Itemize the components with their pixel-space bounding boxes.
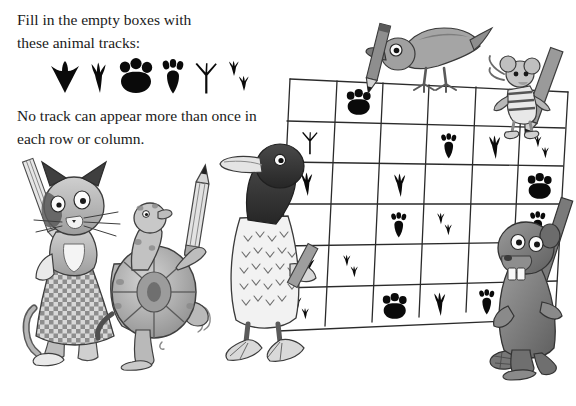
- grid-cell-mouse[interactable]: [327, 244, 373, 290]
- grid-cell-empty[interactable]: [329, 203, 375, 249]
- grid-cell-empty[interactable]: [331, 162, 377, 208]
- legend-slot-rabbit: [157, 60, 189, 94]
- legend-slot-crow: [84, 62, 115, 94]
- rabbit-track-icon: [161, 60, 185, 94]
- turtle-track-icon: [194, 62, 218, 94]
- mouse-track-icon: [341, 254, 360, 280]
- turtle-character: [92, 186, 222, 371]
- grid-cell-cat[interactable]: [371, 283, 417, 329]
- mouse-character: [488, 52, 568, 144]
- grid-cell-crow[interactable]: [378, 162, 424, 208]
- instruction-line-2: these animal tracks:: [17, 31, 297, 54]
- instruction-line-3: No track can appear more than once in: [17, 104, 307, 127]
- cat-paw-track-icon: [380, 293, 409, 320]
- cat-paw-track-icon: [116, 58, 156, 94]
- crow-track-icon: [90, 62, 110, 94]
- track-legend: [46, 52, 256, 94]
- crow-character: [352, 20, 482, 100]
- beaver-character: [492, 208, 574, 380]
- instructions-top: Fill in the empty boxes with these anima…: [17, 8, 297, 54]
- grid-cell-rabbit[interactable]: [376, 202, 422, 248]
- mouse-track-icon: [435, 212, 454, 238]
- instruction-line-1: Fill in the empty boxes with: [17, 8, 297, 31]
- grid-cell-empty[interactable]: [325, 285, 371, 331]
- crow-track-icon: [393, 173, 409, 198]
- grid-cell-crow[interactable]: [418, 281, 464, 327]
- grid-cell-empty[interactable]: [289, 78, 335, 124]
- legend-slot-cat: [115, 58, 157, 94]
- grid-cell-empty[interactable]: [380, 122, 426, 168]
- duck-track-icon: [48, 60, 82, 94]
- rabbit-track-icon: [390, 213, 407, 238]
- grid-cell-empty[interactable]: [333, 121, 379, 167]
- rabbit-track-icon: [440, 134, 457, 159]
- legend-slot-mouse: [222, 60, 256, 94]
- grid-cell-empty[interactable]: [374, 243, 420, 289]
- crow-track-icon: [433, 292, 449, 317]
- duck-character: [218, 140, 318, 365]
- legend-slot-duck: [46, 60, 84, 94]
- cat-paw-track-icon: [525, 173, 554, 200]
- legend-slot-turtle: [189, 62, 222, 94]
- mouse-track-icon: [226, 60, 252, 94]
